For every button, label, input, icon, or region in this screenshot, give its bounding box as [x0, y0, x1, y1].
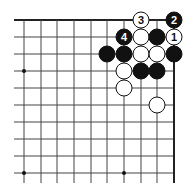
black-stone: [99, 46, 115, 62]
black-stone: 4: [116, 29, 132, 45]
move-number-label: 4: [121, 31, 128, 43]
white-stone: [116, 63, 132, 79]
move-number-label: 1: [171, 31, 177, 43]
star-point-icon: [22, 69, 26, 73]
black-stone: [133, 63, 149, 79]
black-stone: [149, 63, 165, 79]
black-stone-icon: [166, 46, 182, 62]
black-stone-icon: [116, 46, 132, 62]
white-stone: 3: [133, 12, 149, 28]
white-stone-icon: [133, 29, 149, 45]
white-stone-icon: [133, 46, 149, 62]
white-stone: 1: [166, 29, 182, 45]
white-stone: [149, 97, 165, 113]
white-stone: [116, 80, 132, 96]
white-stone-icon: [149, 46, 165, 62]
star-point-icon: [22, 171, 26, 175]
white-stone: [149, 46, 165, 62]
black-stone-icon: [149, 29, 165, 45]
move-number-label: 3: [138, 14, 144, 26]
go-board: 3241: [0, 0, 193, 196]
black-stone: [149, 29, 165, 45]
white-stone: [133, 46, 149, 62]
black-stone-icon: [133, 63, 149, 79]
move-number-label: 2: [171, 14, 177, 26]
white-stone-icon: [116, 80, 132, 96]
black-stone-icon: [149, 63, 165, 79]
white-stone-icon: [116, 63, 132, 79]
star-point-icon: [122, 171, 126, 175]
black-stone: [166, 46, 182, 62]
black-stone-icon: [99, 46, 115, 62]
black-stone: 2: [166, 12, 182, 28]
black-stone: [116, 46, 132, 62]
white-stone-icon: [149, 97, 165, 113]
white-stone: [133, 29, 149, 45]
